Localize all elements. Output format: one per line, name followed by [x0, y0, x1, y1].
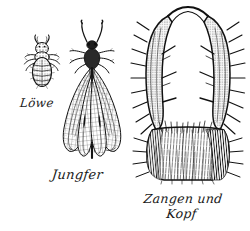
caption-mandibles-line1: Zangen und: [143, 191, 223, 206]
caption-mandibles: Zangen und Kopf: [141, 191, 223, 221]
figure-mandibles: [128, 2, 248, 184]
figure-adult: [52, 20, 132, 168]
caption-larva: Löwe: [19, 96, 54, 110]
caption-adult: Jungfer: [51, 167, 104, 182]
engraving-plate: Löwe: [0, 0, 250, 231]
antlion-mandibles-icon: [128, 2, 248, 184]
caption-mandibles-line2: Kopf: [141, 206, 221, 221]
antlion-adult-icon: [52, 20, 132, 168]
